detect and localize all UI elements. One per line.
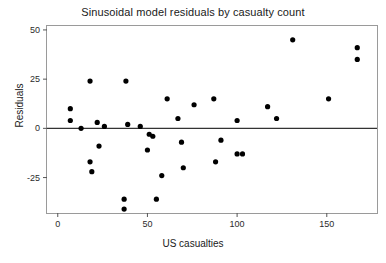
y-tick-label: 0	[35, 123, 40, 133]
data-point	[213, 159, 218, 164]
data-point	[175, 116, 180, 121]
data-point	[181, 165, 186, 170]
data-point	[218, 138, 223, 143]
data-point	[68, 106, 73, 111]
data-point	[235, 151, 240, 156]
data-point	[211, 96, 216, 101]
data-point	[145, 147, 150, 152]
x-axis-label: US casualties	[0, 238, 386, 249]
y-tick-label: 25	[30, 74, 40, 84]
plot-frame	[47, 26, 378, 214]
x-tick-label: 150	[319, 219, 334, 229]
data-point	[355, 57, 360, 62]
data-point	[96, 143, 101, 148]
y-tick-label: -25	[27, 173, 40, 183]
data-point	[122, 206, 127, 211]
data-point	[122, 197, 127, 202]
data-point	[87, 79, 92, 84]
tick-marks	[43, 30, 327, 217]
data-point	[355, 45, 360, 50]
data-point	[165, 96, 170, 101]
axes	[47, 26, 378, 214]
data-point	[102, 124, 107, 129]
data-point	[87, 159, 92, 164]
data-point	[138, 124, 143, 129]
data-point	[290, 37, 295, 42]
data-point	[191, 102, 196, 107]
tick-labels: 050100150-2502550	[27, 25, 334, 229]
y-tick-label: 50	[30, 25, 40, 35]
data-point	[235, 118, 240, 123]
data-point	[240, 151, 245, 156]
y-axis-label: Residuals	[14, 66, 25, 146]
data-point	[68, 118, 73, 123]
data-point	[78, 126, 83, 131]
data-point	[123, 79, 128, 84]
x-tick-label: 50	[142, 219, 152, 229]
data-point	[150, 134, 155, 139]
data-point	[125, 122, 130, 127]
data-point	[274, 116, 279, 121]
data-point	[95, 120, 100, 125]
data-point	[159, 173, 164, 178]
x-tick-label: 0	[55, 219, 60, 229]
x-tick-label: 100	[230, 219, 245, 229]
data-point	[154, 197, 159, 202]
data-point	[326, 96, 331, 101]
data-points	[68, 37, 360, 211]
scatter-plot: 050100150-2502550	[0, 0, 386, 263]
data-point	[265, 104, 270, 109]
data-point	[179, 140, 184, 145]
data-point	[89, 169, 94, 174]
chart-figure: Sinusoidal model residuals by casualty c…	[0, 0, 386, 263]
